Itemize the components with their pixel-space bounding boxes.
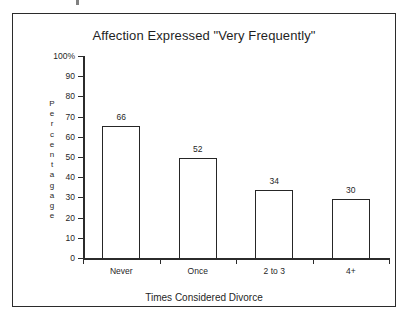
x-axis-tick [83,258,84,264]
y-axis-title-char: c [46,130,58,140]
x-axis-tick [236,258,237,264]
bar[interactable] [179,158,217,258]
y-axis-tick-label: 10 [66,233,75,243]
y-axis-tick-label: 80 [66,91,75,101]
y-axis-tick [78,218,83,219]
x-axis-category-label: Never [110,266,133,276]
y-axis-title-char: n [46,150,58,160]
y-axis-tick [78,238,83,239]
x-axis-tick [160,258,161,264]
y-axis-title-char: P [46,99,58,109]
y-axis-tick-label: 60 [66,132,75,142]
bar-value-label: 34 [270,176,279,186]
y-axis-title-char: a [46,191,58,201]
chart-frame: Affection Expressed "Very Frequently" P … [12,13,396,307]
y-axis-title-char: e [46,140,58,150]
x-axis-category-label: 2 to 3 [264,266,285,276]
y-axis-tick-label: 0 [70,253,75,263]
y-axis-title-char: g [46,201,58,211]
bar[interactable] [255,190,293,258]
y-axis-tick [78,56,83,57]
x-axis-tick [389,258,390,264]
y-axis-tick [78,76,83,77]
y-axis-tick [78,96,83,97]
y-axis-title-char: t [46,160,58,170]
y-axis-tick-label: 90 [66,71,75,81]
y-axis-tick [78,137,83,138]
chart-title: Affection Expressed "Very Frequently" [13,28,395,43]
y-axis-tick-label: 50 [66,152,75,162]
y-axis-tick [78,117,83,118]
y-axis-title-char: r [46,119,58,129]
y-axis-title-char: e [46,211,58,221]
y-axis-tick-label: 40 [66,172,75,182]
bar[interactable] [332,199,370,258]
plot-area: 0102030405060708090100% 66523430 NeverOn… [83,56,393,258]
x-axis-category-label: 4+ [346,266,356,276]
y-axis-tick [78,197,83,198]
y-axis-title-char: a [46,170,58,180]
y-axis-title-char: g [46,181,58,191]
bar-value-label: 52 [193,144,202,154]
x-axis-category-label: Once [188,266,208,276]
y-axis-tick-label: 70 [66,112,75,122]
x-axis-tick [313,258,314,264]
y-axis-tick-label: 100% [53,51,75,61]
y-axis-title-char: e [46,109,58,119]
bar-value-label: 66 [117,112,126,122]
bar[interactable] [102,126,140,258]
y-axis-line [83,56,85,258]
x-axis-title: Times Considered Divorce [13,292,395,303]
y-axis-tick-label: 20 [66,213,75,223]
y-axis-tick [78,177,83,178]
bar-value-label: 30 [346,185,355,195]
y-axis-title: P e r c e n t a g a g e [46,99,58,221]
y-axis-tick-label: 30 [66,192,75,202]
scan-artifact [76,0,79,5]
y-axis-tick [78,157,83,158]
